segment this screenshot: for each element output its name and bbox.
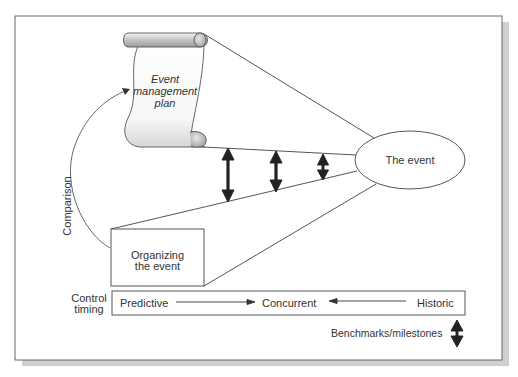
timing-historic: Historic	[417, 297, 454, 309]
organizing-label-line: the event	[111, 261, 204, 272]
diagram-canvas	[0, 0, 518, 377]
legend-label: Benchmarks/milestones	[331, 327, 442, 339]
plan-label-line: plan	[130, 97, 200, 109]
plan-label-line: Event	[130, 73, 200, 85]
plan-label: Event management plan	[130, 73, 200, 109]
timing-concurrent: Concurrent	[262, 297, 316, 309]
plan-label-line: management	[130, 85, 200, 97]
timing-predictive: Predictive	[120, 297, 168, 309]
organizing-label: Organizing the event	[111, 250, 204, 272]
the-event-label: The event	[380, 154, 440, 166]
control-timing-line: timing	[66, 304, 112, 315]
control-timing-label: Control timing	[66, 293, 112, 315]
comparison-label: Comparison	[61, 171, 73, 241]
